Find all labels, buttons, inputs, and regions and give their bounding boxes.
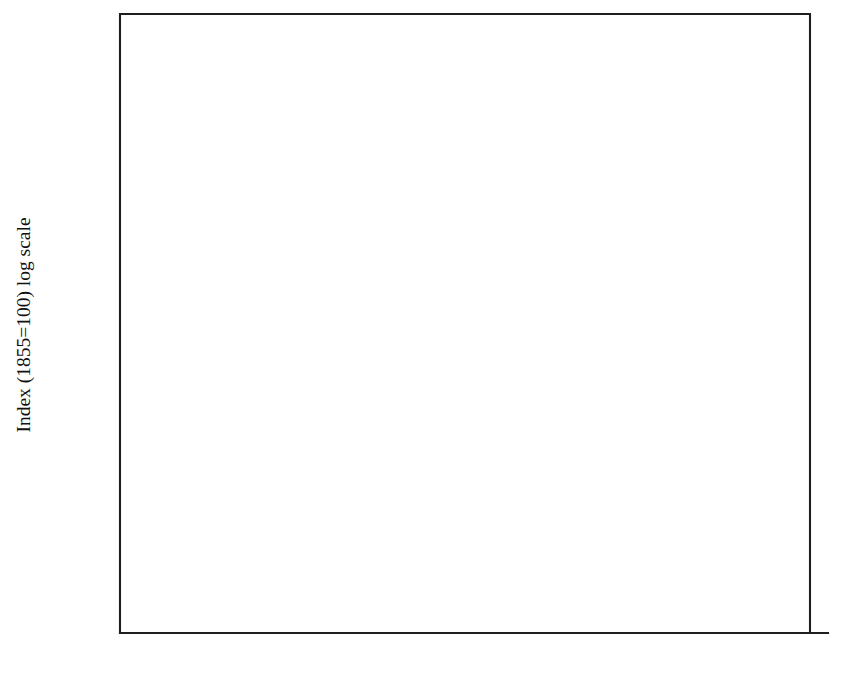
- plot-frame: [120, 14, 828, 633]
- chart-figure: Index (1855=100) log scale: [0, 0, 841, 676]
- chart-canvas: Index (1855=100) log scale: [0, 0, 841, 676]
- y-axis-title: Index (1855=100) log scale: [13, 217, 35, 432]
- plot-border: [120, 14, 810, 633]
